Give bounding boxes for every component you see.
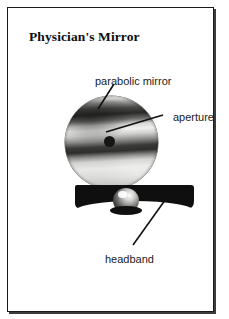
figure-frame: Physician's Mirror parabolic mirror aper… [7, 7, 214, 312]
pivot-highlight [118, 191, 127, 198]
figure-page: Physician's Mirror parabolic mirror aper… [0, 0, 229, 319]
label-headband: headband [105, 253, 154, 265]
label-aperture: aperture [173, 111, 214, 123]
mirror-photo [48, 88, 208, 218]
page-title: Physician's Mirror [29, 29, 140, 45]
aperture-hole [104, 136, 115, 147]
label-parabolic-mirror: parabolic mirror [95, 75, 171, 87]
pivot-shadow [110, 206, 142, 215]
